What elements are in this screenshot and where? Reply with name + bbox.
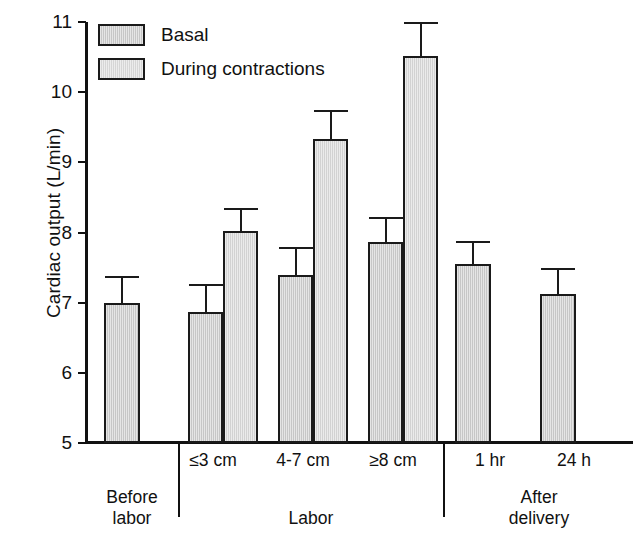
x-tick-label-le3cm: ≤3 cm [168,450,258,471]
error-bar-stem-24h-basal [557,268,559,294]
legend-label-during-contractions: During contractions [161,58,325,80]
error-bar-cap-ge8cm-basal [369,217,403,219]
error-bar-stem-ge8cm-during [420,22,422,56]
x-tick-label-24h: 24 h [532,450,616,471]
x-group-label-before-labor-line2: labor [86,508,178,529]
legend-label-basal: Basal [161,24,209,46]
cardiac-output-bar-chart: Cardiac output (L/min) 111098765 ≤3 cm 4… [0,0,636,536]
y-tick-label-9: 9 [40,152,72,171]
error-bar-stem-4-7cm-during [330,110,332,139]
legend-swatch-basal-icon [98,24,145,46]
error-bar-cap-1hr-basal [456,241,490,243]
group-separator-labor [443,441,445,517]
y-tick-label-10: 10 [40,82,72,101]
error-bar-cap-before-labor-basal [105,276,139,278]
x-group-label-after-delivery: After delivery [446,487,632,529]
bar-24h-basal [540,294,576,443]
x-group-label-after-delivery-line1: After [446,487,632,508]
error-bar-stem-1hr-basal [472,241,474,264]
error-bar-cap-ge8cm-during [404,22,438,24]
error-bar-cap-4-7cm-basal [279,247,313,249]
error-bar-stem-le3cm-basal [205,284,207,312]
x-tick-label-4-7cm: 4-7 cm [258,450,348,471]
legend: Basal During contractions [98,20,325,88]
x-group-label-before-labor-line1: Before [86,487,178,508]
x-tick-label-1hr: 1 hr [448,450,532,471]
bar-1hr-basal [455,264,491,443]
legend-item-basal: Basal [98,20,325,50]
x-group-label-before-labor: Before labor [86,487,178,529]
y-tick-label-7: 7 [40,293,72,312]
y-tick-label-11: 11 [40,12,72,31]
error-bar-stem-4-7cm-basal [295,247,297,275]
y-tick-label-8: 8 [40,223,72,242]
y-tick-label-6: 6 [40,363,72,382]
error-bar-cap-4-7cm-during [314,110,348,112]
bar-before-labor-basal [104,303,140,443]
error-bar-cap-le3cm-during [224,208,258,210]
error-bar-stem-le3cm-during [240,208,242,231]
error-bar-stem-before-labor-basal [121,276,123,303]
x-group-label-labor-line1: Labor [180,508,442,529]
x-tick-label-ge8cm: ≥8 cm [348,450,438,471]
bar-4-7cm-during [313,139,348,443]
bar-ge8cm-during [403,56,438,443]
error-bar-stem-ge8cm-basal [385,217,387,242]
bar-ge8cm-basal [368,242,403,443]
error-bar-cap-24h-basal [541,268,575,270]
legend-item-during-contractions: During contractions [98,54,325,84]
bar-le3cm-basal [188,312,223,443]
bar-le3cm-during [223,231,258,443]
x-group-label-after-delivery-line2: delivery [446,508,632,529]
error-bar-cap-le3cm-basal [189,284,223,286]
y-tick-label-5: 5 [40,433,72,452]
bar-4-7cm-basal [278,275,313,443]
legend-swatch-during-contractions-icon [98,58,145,80]
x-group-label-labor: Labor [180,508,442,529]
